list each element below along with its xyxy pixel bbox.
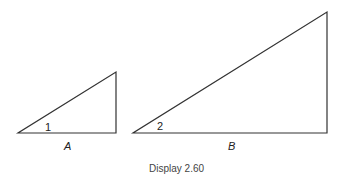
display-caption: Display 2.60 — [149, 163, 204, 174]
triangle-a — [18, 72, 116, 133]
triangle-a-label: A — [64, 140, 71, 152]
triangles-drawing — [0, 0, 344, 187]
angle-label-2: 2 — [157, 120, 163, 132]
diagram-canvas: 1 2 A B Display 2.60 — [0, 0, 344, 187]
triangle-b-label: B — [228, 140, 235, 152]
angle-label-1: 1 — [45, 121, 51, 133]
triangle-b — [133, 12, 327, 133]
